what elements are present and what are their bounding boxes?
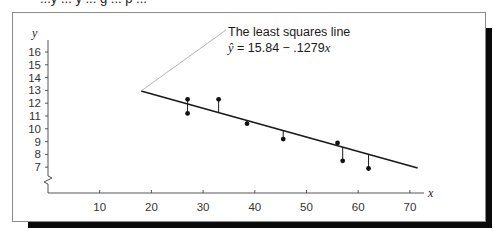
equation-variable: x [324,41,331,55]
y-tick-label: 9 [35,136,41,148]
y-tick-label: 12 [28,97,41,109]
data-points [185,97,371,171]
regression-line [141,91,418,168]
y-axis-label: y [31,26,38,40]
y-tick-label: 8 [35,148,41,160]
y-tick-label: 16 [28,46,41,58]
x-tick-label: 70 [404,201,417,213]
data-point [185,97,190,102]
annotation-title: The least squares line [228,25,350,39]
data-point [245,121,250,126]
ticks: 7891011121314151610203040506070 [28,46,416,213]
data-point [335,140,340,145]
y-axis-break-icon [44,176,52,184]
residual-segments [188,99,369,168]
x-tick-label: 30 [197,201,210,213]
y-tick-label: 10 [28,123,41,135]
y-tick-label: 15 [28,59,41,71]
y-tick-label: 7 [35,161,41,173]
annotation-leader-line [141,30,226,91]
x-axis-label: x [427,186,434,200]
data-point [340,158,345,163]
data-point [281,137,286,142]
least-squares-line [141,91,418,168]
data-point [366,166,371,171]
y-tick-label: 11 [29,110,41,122]
equation-body: = 15.84 − .1279 [234,41,325,55]
annotation-equation: ŷ = 15.84 − .1279x [226,41,331,55]
y-tick-label: 13 [28,84,41,96]
y-tick-label: 14 [28,72,41,84]
data-point [185,111,190,116]
x-tick-label: 10 [93,201,106,213]
scatter-chart: 7891011121314151610203040506070 The leas… [0,0,501,242]
x-tick-label: 20 [145,201,158,213]
x-tick-label: 40 [248,201,261,213]
data-point [216,97,221,102]
x-tick-label: 60 [352,201,365,213]
x-tick-label: 50 [300,201,313,213]
